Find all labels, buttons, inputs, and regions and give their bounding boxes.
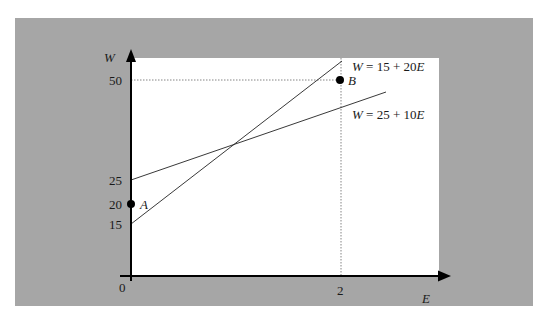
equation-label-2: W = 25 + 10E [352, 108, 424, 121]
y-tick-20: 20 [92, 198, 122, 211]
eq2-rhs: = 25 + 10 [363, 107, 417, 122]
eq2-var: E [417, 107, 425, 122]
eq1-var: E [417, 59, 425, 74]
y-tick-15: 15 [92, 218, 122, 231]
eq1-rhs: = 15 + 20 [363, 59, 417, 74]
chart-svg [0, 0, 546, 328]
x-axis-label: E [422, 292, 430, 305]
eq1-lhs: W [352, 59, 363, 74]
y-axis-label: W [104, 51, 115, 64]
y-axis-arrow-icon [126, 49, 136, 62]
point-a-label: A [140, 198, 148, 211]
x-axis-arrow-icon [438, 271, 451, 282]
y-tick-50: 50 [92, 74, 122, 87]
point-a [127, 200, 135, 208]
y-tick-25: 25 [92, 174, 122, 187]
eq2-lhs: W [352, 107, 363, 122]
origin-label: 0 [119, 281, 126, 294]
line-w-15-20e [131, 61, 342, 224]
x-tick-2: 2 [337, 284, 344, 297]
equation-label-1: W = 15 + 20E [352, 60, 424, 73]
line-w-25-10e [131, 92, 386, 180]
point-b [336, 76, 344, 84]
point-b-label: B [348, 74, 356, 87]
